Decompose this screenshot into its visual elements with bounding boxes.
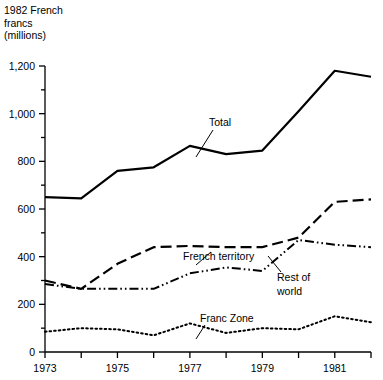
total-label: Total xyxy=(209,116,231,128)
rest-of-world-label: Rest of xyxy=(277,271,310,283)
franc-zone-label: Franc Zone xyxy=(200,312,254,324)
rest-of-world-label-2: world xyxy=(276,285,302,297)
annotation-layer: Total French territory Rest of world Fra… xyxy=(0,0,383,380)
french-territory-label: French territory xyxy=(183,250,255,262)
line-chart: 1982 French francs (millions) 0200400600… xyxy=(0,0,383,380)
